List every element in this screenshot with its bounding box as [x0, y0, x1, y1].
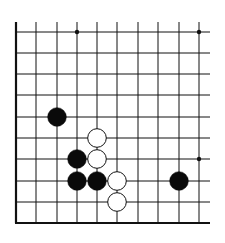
black-stone	[48, 108, 67, 127]
black-stone	[170, 172, 189, 191]
white-stone	[88, 129, 107, 148]
star-point	[197, 157, 201, 161]
black-stone	[68, 172, 87, 191]
go-board	[0, 0, 225, 243]
star-point	[75, 30, 79, 34]
star-point	[197, 30, 201, 34]
black-stone	[88, 172, 107, 191]
white-stone	[108, 193, 127, 212]
black-stone	[68, 150, 87, 169]
board-grid	[15, 22, 210, 223]
white-stone	[88, 150, 107, 169]
white-stone	[108, 172, 127, 191]
